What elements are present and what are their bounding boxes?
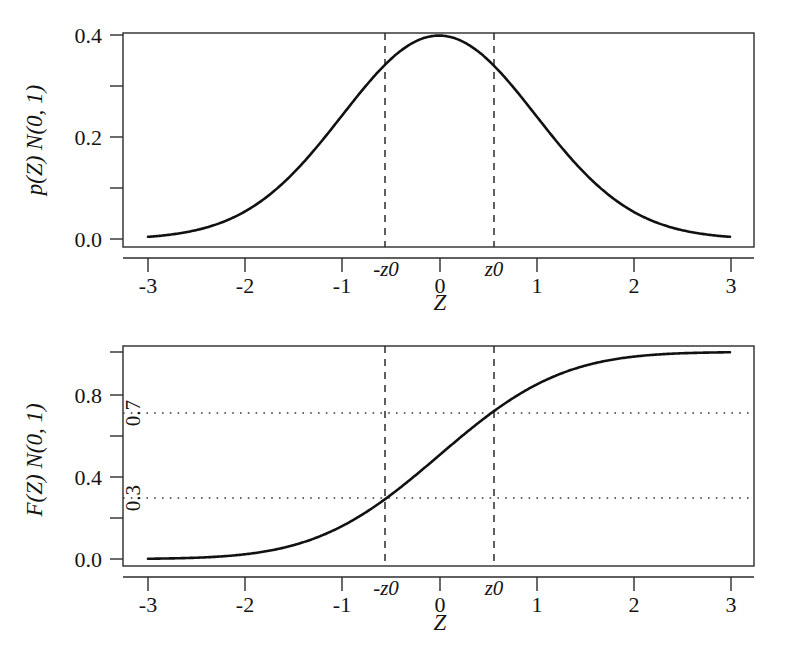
cdf-inline-label-0.7: 0.7 [121,400,145,426]
cdf-x-axis-title: Z [434,610,447,635]
cdf-ytick-label-0.0: 0.0 [75,547,103,572]
pdf-x-axis-title: Z [434,290,447,315]
pdf-curve [148,36,730,237]
pdf-y-axis-title: p(Z) N(0, 1) [22,85,47,198]
cdf-xtick-label-1: 1 [532,592,543,617]
pdf-ytick-label-0.4: 0.4 [75,23,103,48]
chart-svg: 0.4 0.2 0.0 p(Z) N(0, 1) -3 -2 -1 0 1 2 [0,0,793,667]
cdf-curve [148,352,730,558]
cdf-inline-label-0.3: 0.3 [121,485,145,511]
figure-canvas: 0.4 0.2 0.0 p(Z) N(0, 1) -3 -2 -1 0 1 2 [0,0,793,667]
pdf-xtick-label-3: 3 [726,273,737,298]
cdf-x-ticks [148,577,731,591]
cdf-xtick-label--3: -3 [139,592,157,617]
pdf-marker-label-z0: z0 [484,257,504,281]
cdf-y-axis-title: F(Z) N(0, 1) [22,403,47,517]
cdf-xtick-label--2: -2 [236,592,254,617]
pdf-xtick-label--1: -1 [333,273,351,298]
pdf-y-axis [110,35,123,239]
cdf-y-axis [110,352,123,559]
cdf-xtick-label--1: -1 [333,592,351,617]
cdf-xtick-label-3: 3 [726,592,737,617]
pdf-panel: 0.4 0.2 0.0 p(Z) N(0, 1) -3 -2 -1 0 1 2 [22,23,754,315]
pdf-ytick-label-0.2: 0.2 [75,125,103,150]
pdf-xtick-label-2: 2 [629,273,640,298]
cdf-panel: 0.8 0.4 0.0 F(Z) N(0, 1) 0.7 0.3 [22,346,754,635]
pdf-plot-frame [123,33,754,247]
cdf-marker-label-z0: z0 [484,576,504,600]
pdf-xtick-label-1: 1 [532,273,543,298]
cdf-ytick-label-0.4: 0.4 [75,465,103,490]
cdf-ytick-label-0.8: 0.8 [75,383,103,408]
pdf-marker-label-neg-z0: -z0 [373,257,399,281]
pdf-x-ticks [148,258,731,272]
pdf-ytick-label-0.0: 0.0 [75,227,103,252]
cdf-xtick-label-2: 2 [629,592,640,617]
pdf-xtick-label--3: -3 [139,273,157,298]
cdf-marker-label-neg-z0: -z0 [373,576,399,600]
pdf-xtick-label--2: -2 [236,273,254,298]
